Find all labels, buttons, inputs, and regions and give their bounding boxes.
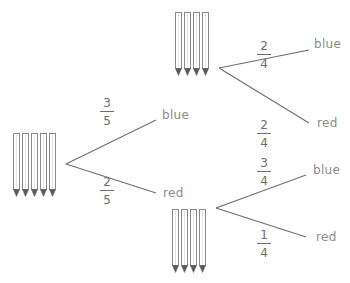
pencil-icon <box>41 134 47 197</box>
outcome-label-blue-red: red <box>317 117 338 129</box>
fraction-denominator: 4 <box>257 55 271 70</box>
outcome-label-red-red: red <box>316 231 337 243</box>
pencil-group-after-red <box>173 210 206 273</box>
pencil-icon <box>50 134 56 197</box>
probability-fraction-first-blue: 3 5 <box>100 97 114 127</box>
pencil-icon <box>23 134 29 197</box>
probability-fraction-blue-red: 2 4 <box>257 119 271 149</box>
pencil-icon <box>203 13 209 76</box>
probability-fraction-blue-blue: 2 4 <box>257 40 271 70</box>
fraction-numerator: 2 <box>100 176 114 191</box>
fraction-denominator: 4 <box>257 172 271 187</box>
pencil-icon <box>14 134 20 197</box>
fraction-numerator: 2 <box>257 119 271 134</box>
fraction-denominator: 4 <box>257 244 271 259</box>
pencil-group-start <box>14 134 56 197</box>
probability-fraction-first-red: 2 5 <box>100 176 114 206</box>
fraction-numerator: 3 <box>257 157 271 172</box>
fraction-denominator: 5 <box>100 112 114 127</box>
fraction-denominator: 4 <box>257 134 271 149</box>
outcome-label-blue-blue: blue <box>314 38 341 50</box>
pencil-icon <box>191 210 197 273</box>
outcome-label-red: red <box>163 187 184 199</box>
pencil-icon <box>200 210 206 273</box>
pencil-icon <box>194 13 200 76</box>
branch-line-blue-red <box>219 68 309 123</box>
tree-diagram <box>0 0 350 283</box>
fraction-numerator: 2 <box>257 40 271 55</box>
pencil-icon <box>173 210 179 273</box>
outcome-label-blue: blue <box>162 109 189 121</box>
probability-fraction-red-red: 1 4 <box>257 229 271 259</box>
pencil-icon <box>182 210 188 273</box>
pencil-group-after-blue <box>176 13 209 76</box>
fraction-numerator: 1 <box>257 229 271 244</box>
pencil-icon <box>32 134 38 197</box>
pencil-icon <box>176 13 182 76</box>
fraction-denominator: 5 <box>100 191 114 206</box>
outcome-label-red-blue: blue <box>313 164 340 176</box>
probability-fraction-red-blue: 3 4 <box>257 157 271 187</box>
fraction-numerator: 3 <box>100 97 114 112</box>
pencil-icon <box>185 13 191 76</box>
